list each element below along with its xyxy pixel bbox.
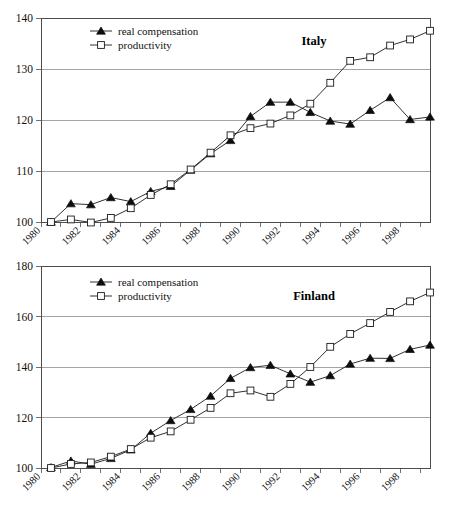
italy-marker-square	[107, 215, 114, 222]
italy-data-series	[47, 27, 435, 226]
finland-xtick-label-1996: 1996	[339, 471, 362, 494]
italy-legend-label-1: productivity	[118, 39, 172, 51]
finland-marker-triangle	[326, 372, 335, 379]
italy-marker-triangle	[326, 117, 335, 124]
finland-tickmarks	[36, 266, 420, 473]
italy-marker-square	[327, 79, 334, 86]
italy-xtick-label-1992: 1992	[259, 225, 282, 248]
italy-xtick-label-1994: 1994	[299, 224, 322, 247]
finland-legend-label-1: productivity	[118, 290, 172, 302]
finland-marker-square	[387, 309, 394, 316]
italy-ytick-label-140: 140	[16, 12, 34, 24]
finland-line-0	[51, 345, 430, 467]
finland-ytick-label-180: 180	[16, 260, 34, 272]
finland-ytick-label-140: 140	[16, 361, 34, 373]
italy-marker-square	[147, 192, 154, 199]
finland-marker-square	[207, 405, 214, 412]
finland-marker-triangle	[226, 374, 235, 381]
finland-marker-square	[287, 381, 294, 388]
finland-marker-triangle	[266, 361, 275, 368]
finland-xtick-label-1980: 1980	[20, 471, 43, 494]
italy-marker-square	[247, 125, 254, 132]
finland-marker-square	[367, 320, 374, 327]
italy-marker-square	[87, 219, 94, 226]
italy-tickmarks	[36, 18, 420, 227]
figure-root: 100110120130140 198019821984198619881990…	[0, 0, 449, 510]
italy-ytick-label-130: 130	[16, 63, 34, 75]
italy-legend-label-0: real compensation	[118, 25, 199, 37]
finland-xtick-label-1982: 1982	[60, 471, 83, 494]
italy-xtick-label-1996: 1996	[339, 225, 362, 248]
italy-y-axis-labels: 100110120130140	[16, 12, 34, 228]
finland-marker-square	[48, 465, 55, 472]
italy-legend-marker-square	[98, 42, 105, 49]
finland-marker-square	[147, 434, 154, 441]
italy-marker-square	[227, 132, 234, 139]
italy-svg: 100110120130140 198019821984198619881990…	[0, 0, 449, 255]
finland-legend-label-0: real compensation	[118, 276, 199, 288]
italy-legend: real compensationproductivity	[90, 25, 199, 51]
finland-gridlines	[41, 317, 430, 418]
finland-marker-triangle	[286, 370, 295, 377]
finland-xtick-label-1988: 1988	[179, 471, 202, 494]
finland-marker-square	[87, 459, 94, 466]
finland-chart-title: Finland	[293, 289, 335, 303]
finland-marker-square	[127, 446, 134, 453]
italy-marker-square	[187, 166, 194, 173]
chart-panel-finland: 100120140160180 198019821984198619881990…	[0, 255, 449, 510]
finland-marker-square	[267, 393, 274, 400]
italy-line-0	[51, 98, 430, 222]
finland-ytick-label-160: 160	[16, 311, 34, 323]
italy-marker-triangle	[106, 194, 115, 201]
italy-chart-title: Italy	[302, 34, 328, 48]
italy-ytick-label-100: 100	[16, 216, 34, 228]
finland-marker-square	[327, 343, 334, 350]
italy-marker-square	[427, 27, 434, 34]
finland-marker-square	[347, 331, 354, 338]
italy-gridlines	[41, 69, 430, 171]
italy-ytick-label-110: 110	[16, 165, 33, 177]
finland-marker-triangle	[186, 405, 195, 412]
italy-marker-square	[48, 219, 55, 226]
finland-marker-square	[68, 461, 75, 468]
finland-marker-square	[187, 416, 194, 423]
italy-marker-triangle	[386, 94, 395, 101]
chart-panel-italy: 100110120130140 198019821984198619881990…	[0, 0, 449, 255]
finland-marker-triangle	[306, 378, 315, 385]
italy-marker-square	[387, 42, 394, 49]
finland-xtick-label-1992: 1992	[259, 471, 282, 494]
italy-marker-triangle	[246, 112, 255, 119]
finland-ytick-label-120: 120	[16, 412, 34, 424]
finland-xtick-label-1986: 1986	[139, 471, 162, 494]
italy-xtick-label-1984: 1984	[100, 224, 123, 247]
finland-xtick-label-1998: 1998	[379, 471, 402, 494]
italy-marker-triangle	[426, 113, 435, 120]
finland-marker-square	[407, 298, 414, 305]
italy-marker-triangle	[306, 108, 315, 115]
italy-marker-square	[287, 112, 294, 119]
italy-marker-square	[347, 57, 354, 64]
finland-marker-triangle	[426, 341, 435, 348]
italy-marker-square	[367, 54, 374, 61]
finland-x-axis-labels: 1980198219841986198819901992199419961998	[20, 470, 402, 493]
italy-marker-triangle	[67, 200, 76, 207]
italy-xtick-label-1986: 1986	[139, 225, 162, 248]
italy-marker-square	[167, 181, 174, 188]
finland-marker-square	[427, 289, 434, 296]
italy-marker-square	[127, 205, 134, 212]
italy-marker-triangle	[366, 106, 375, 113]
finland-y-axis-labels: 100120140160180	[16, 260, 34, 474]
italy-marker-square	[68, 216, 75, 223]
italy-ytick-label-120: 120	[16, 114, 34, 126]
italy-x-axis-labels: 1980198219841986198819901992199419961998	[20, 224, 402, 247]
finland-line-1	[51, 293, 430, 468]
italy-xtick-label-1982: 1982	[60, 225, 83, 248]
finland-marker-square	[227, 390, 234, 397]
finland-marker-square	[167, 428, 174, 435]
italy-marker-square	[267, 120, 274, 127]
italy-marker-square	[407, 36, 414, 43]
finland-legend-marker-square	[98, 293, 105, 300]
finland-ytick-label-100: 100	[16, 462, 34, 474]
italy-marker-square	[307, 100, 314, 107]
finland-svg: 100120140160180 198019821984198619881990…	[0, 255, 449, 510]
